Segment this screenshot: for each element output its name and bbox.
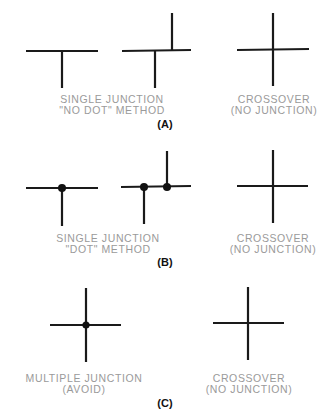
panel-a-crossover: [237, 13, 309, 86]
panel-b-single-t-dot: [26, 184, 98, 226]
junction-dot: [163, 183, 171, 191]
panel-a-double-t-no-dot: [122, 13, 191, 88]
panel-b-crossover: [237, 150, 308, 223]
panel-a-single-t-no-dot: [26, 51, 98, 88]
wiring-junction-diagram: [0, 0, 325, 418]
panel-c-right-caption-line2: (NO JUNCTION): [206, 384, 293, 395]
panel-c-multiple-junction: [50, 288, 121, 362]
panel-c-crossover: [213, 287, 284, 360]
panel-c-left-caption-line2: (AVOID): [62, 384, 105, 395]
panel-b-right-caption-line2: (NO JUNCTION): [230, 244, 317, 255]
panel-a-right-caption-line2: (NO JUNCTION): [231, 105, 318, 116]
junction-dot: [82, 321, 89, 328]
panel-b-left-caption-line2: "DOT" METHOD: [65, 244, 150, 255]
junction-dot: [140, 183, 148, 191]
panel-b-double-t-dot: [121, 151, 191, 224]
panel-b-tag: (B): [157, 256, 172, 268]
panel-a-tag: (A): [157, 118, 172, 130]
panel-a-left-caption-line2: "NO DOT" METHOD: [59, 105, 165, 116]
junction-dot: [58, 184, 66, 192]
panel-c-tag: (C): [157, 397, 172, 409]
